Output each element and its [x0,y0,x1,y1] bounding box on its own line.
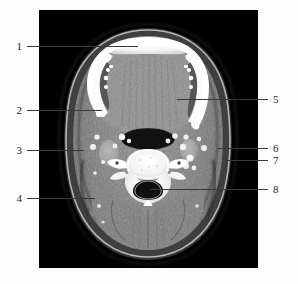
label-number-5: 5 [273,94,279,105]
ct-axial-neck-image [39,10,258,268]
leader-line-6 [218,148,268,149]
label-number-2: 2 [13,105,22,116]
leader-line-1 [27,46,138,47]
leader-line-7 [226,160,268,161]
leader-line-8 [150,189,268,190]
label-number-8: 8 [273,184,279,195]
ct-image-plate [39,10,258,268]
label-number-3: 3 [13,145,22,156]
leader-line-5 [177,99,268,100]
leader-line-2 [27,110,102,111]
label-number-1: 1 [13,41,22,52]
label-number-7: 7 [273,155,279,166]
label-number-4: 4 [13,193,22,204]
label-number-6: 6 [273,143,279,154]
labeled-ct-figure: 1 2 3 4 5 6 7 8 [0,0,298,284]
leader-line-3 [27,150,84,151]
leader-line-4 [27,198,95,199]
